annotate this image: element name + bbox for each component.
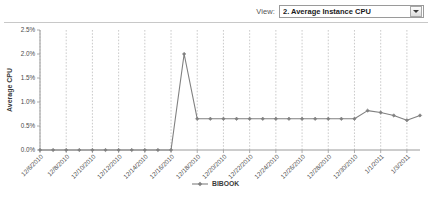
y-tick-label: 2.5% bbox=[21, 26, 36, 33]
data-point bbox=[235, 117, 238, 120]
chart-area: 0.0%0.5%1.0%1.5%2.0%2.5%Average CPU12/6/… bbox=[0, 24, 432, 200]
x-tick-label: 12/12/2010 bbox=[96, 152, 124, 180]
x-tick-label: 12/14/2010 bbox=[122, 152, 150, 180]
data-point bbox=[222, 117, 225, 120]
view-select[interactable]: 2. Average Instance CPU bbox=[279, 5, 424, 18]
series-line-bibook bbox=[40, 54, 420, 150]
x-tick-label: 12/26/2010 bbox=[279, 152, 307, 180]
x-tick-label: 12/18/2010 bbox=[174, 152, 202, 180]
y-tick-label: 2.0% bbox=[21, 50, 36, 57]
chevron-down-icon[interactable] bbox=[410, 6, 422, 17]
data-point bbox=[327, 117, 330, 120]
cpu-chart-panel: View: 2. Average Instance CPU 0.0%0.5%1.… bbox=[0, 0, 432, 200]
view-label: View: bbox=[256, 7, 275, 16]
chart-header: View: 2. Average Instance CPU bbox=[0, 0, 432, 24]
x-tick-label: 12/22/2010 bbox=[227, 152, 255, 180]
data-point bbox=[340, 117, 343, 120]
y-tick-label: 1.0% bbox=[21, 98, 36, 105]
data-point bbox=[104, 148, 107, 151]
data-point bbox=[418, 114, 421, 117]
data-point bbox=[91, 148, 94, 151]
data-point bbox=[117, 148, 120, 151]
data-point bbox=[169, 148, 172, 151]
x-tick-label: 12/30/2010 bbox=[331, 152, 359, 180]
legend-label: BIBOOK bbox=[212, 180, 239, 187]
y-tick-label: 0.5% bbox=[21, 122, 36, 129]
data-point bbox=[65, 148, 68, 151]
y-tick-label: 0.0% bbox=[21, 146, 36, 153]
data-point bbox=[313, 117, 316, 120]
x-tick-label: 12/10/2010 bbox=[69, 152, 97, 180]
x-tick-label: 12/8/2010 bbox=[46, 152, 71, 177]
x-tick-label: 12/6/2010 bbox=[19, 152, 44, 177]
data-point bbox=[143, 148, 146, 151]
data-point bbox=[196, 117, 199, 120]
data-point bbox=[209, 117, 212, 120]
view-select-value: 2. Average Instance CPU bbox=[283, 6, 371, 17]
x-tick-label: 1/3/2011 bbox=[389, 152, 411, 174]
x-tick-label: 1/1/2011 bbox=[363, 152, 385, 174]
header-divider bbox=[4, 22, 428, 23]
data-point bbox=[248, 117, 251, 120]
data-point bbox=[38, 148, 41, 151]
data-point bbox=[405, 119, 408, 122]
y-tick-label: 1.5% bbox=[21, 74, 36, 81]
data-point bbox=[156, 148, 159, 151]
x-tick-label: 12/20/2010 bbox=[200, 152, 228, 180]
data-point bbox=[261, 117, 264, 120]
legend-marker-diamond bbox=[198, 182, 202, 186]
data-point bbox=[287, 117, 290, 120]
data-point bbox=[300, 117, 303, 120]
x-tick-label: 12/28/2010 bbox=[305, 152, 333, 180]
data-point bbox=[182, 52, 185, 55]
data-point bbox=[392, 114, 395, 117]
data-point bbox=[379, 111, 382, 114]
data-point bbox=[78, 148, 81, 151]
data-point bbox=[130, 148, 133, 151]
view-selector-row: View: 2. Average Instance CPU bbox=[256, 5, 424, 18]
data-point bbox=[274, 117, 277, 120]
data-point bbox=[51, 148, 54, 151]
y-axis-title: Average CPU bbox=[6, 68, 14, 112]
line-chart: 0.0%0.5%1.0%1.5%2.0%2.5%Average CPU12/6/… bbox=[0, 24, 432, 200]
x-tick-label: 12/24/2010 bbox=[253, 152, 281, 180]
x-tick-label: 12/16/2010 bbox=[148, 152, 176, 180]
